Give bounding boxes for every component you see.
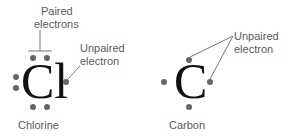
paired-electrons-label: Paired electrons <box>35 5 79 31</box>
electron-dot <box>186 104 192 110</box>
carbon-unpaired-label: Unpaired electron <box>234 30 279 56</box>
electron-dot <box>44 55 50 61</box>
electron-dot <box>161 79 167 85</box>
chlorine-unpaired-label: Unpaired electron <box>80 42 125 68</box>
electron-dot <box>186 57 192 63</box>
label-line: electron <box>80 55 125 68</box>
label-line: Unpaired <box>80 42 125 55</box>
chlorine-symbol: Cl <box>21 56 68 106</box>
electron-dot <box>13 74 19 80</box>
electron-dot <box>30 55 36 61</box>
carbon-symbol: C <box>174 56 207 106</box>
electron-dot <box>207 79 213 85</box>
chlorine-name: Chlorine <box>18 119 59 132</box>
label-line: electrons <box>34 18 79 31</box>
label-line: Paired <box>35 5 79 18</box>
electron-dot <box>63 79 69 85</box>
carbon-name: Carbon <box>169 119 205 132</box>
electron-dot <box>44 104 50 110</box>
label-line: Unpaired <box>234 30 279 43</box>
electron-dot <box>30 104 36 110</box>
label-line: electron <box>234 43 279 56</box>
electron-dot <box>13 85 19 91</box>
